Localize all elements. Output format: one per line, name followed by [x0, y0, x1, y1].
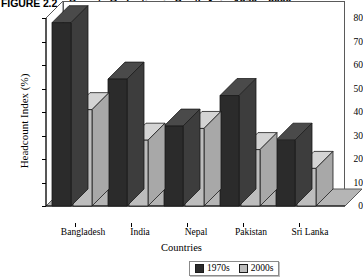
bar-pakistan-1970s[interactable] [220, 79, 256, 206]
legend-item-2000s[interactable]: 2000s [239, 263, 274, 273]
legend-swatch-2000s [239, 264, 248, 273]
bar-sri-lanka-1970s[interactable] [276, 123, 312, 206]
bar-nepal-1970s[interactable] [164, 109, 200, 206]
x-label-india: India [108, 227, 172, 237]
legend-item-1970s[interactable]: 1970s [195, 263, 230, 273]
x-axis-label: Countries [0, 242, 363, 253]
bar-india-1970s[interactable] [108, 62, 144, 206]
figure-number: FIGURE 2.2 [1, 0, 57, 9]
plot-area: 80 70 60 50 40 30 20 10 0 [0, 10, 363, 258]
bars-layer [0, 10, 363, 258]
legend-label-2000s: 2000s [251, 263, 274, 273]
legend-swatch-1970s [195, 264, 204, 273]
legend-label-1970s: 1970s [207, 263, 230, 273]
chart-container: Headcount Index (%) 80 70 60 50 40 30 20… [0, 10, 363, 258]
x-label-srilanka: Sri Lanka [274, 227, 346, 237]
bar-bangladesh-1970s[interactable] [52, 6, 88, 206]
chart-legend: 1970s 2000s [189, 261, 279, 276]
